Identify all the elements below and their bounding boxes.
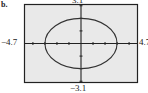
graph-window xyxy=(0,0,148,93)
